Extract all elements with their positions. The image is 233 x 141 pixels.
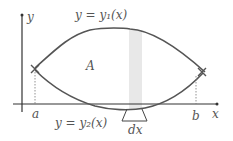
upper-curve-label: y = y₁(x) [75,9,127,21]
x-axis-label: x [212,108,219,120]
region-label: A [86,60,95,72]
b-label: b [192,110,200,122]
intersection-left-icon [31,65,39,73]
x-axis-arrow-icon [216,103,219,106]
a-label: a [32,108,39,120]
upper-curve [35,28,205,72]
lower-curve-label: y = y₂(x) [55,117,107,129]
dx-bracket [122,109,147,121]
dx-strip [129,30,142,110]
y-axis-label: y [27,11,34,23]
dx-label: dx [128,124,142,136]
y-axis-arrow-icon [21,14,24,17]
